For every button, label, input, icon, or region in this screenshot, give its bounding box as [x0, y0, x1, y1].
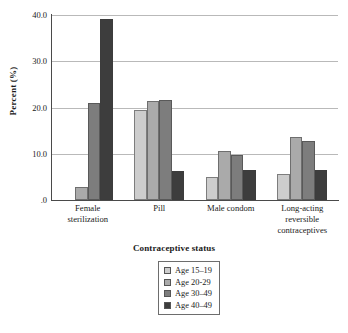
bar [134, 110, 147, 200]
bar [147, 101, 160, 200]
y-axis-tick-label: 40.0 [32, 10, 47, 20]
x-axis-tick-label: Pill [124, 203, 196, 214]
x-axis-tick-label-line: reversible [267, 214, 339, 225]
legend-item-label: Age 20-29 [175, 278, 211, 287]
legend-swatch-icon [164, 290, 171, 297]
x-axis-tick-label-line: Female [52, 203, 124, 214]
bar-group [63, 15, 113, 200]
legend-item: Age 40–49 [164, 300, 212, 312]
bar [243, 170, 256, 200]
bar [159, 100, 172, 200]
x-axis-tick-label-line: sterilization [52, 214, 124, 225]
x-axis-tick-label-line: contraceptives [267, 225, 339, 236]
plot-inner: .010.020.030.040.0 [52, 15, 338, 200]
bar [315, 170, 328, 200]
chart-legend: Age 15–19Age 20-29Age 30–49Age 40–49 [158, 261, 220, 315]
y-axis-title: Percent (%) [8, 51, 18, 131]
bar [302, 141, 315, 200]
y-axis-tick-label: 10.0 [32, 149, 47, 159]
bar [100, 19, 113, 200]
legend-swatch-icon [164, 302, 171, 309]
x-axis-tick-label-line: Long-acting [267, 203, 339, 214]
plot-area: .010.020.030.040.0 [52, 15, 338, 200]
bar-chart-figure: Percent (%) .010.020.030.040.0 Femaleste… [0, 0, 348, 333]
y-axis-tick-label: .0 [41, 195, 47, 205]
x-axis-title: Contraceptive status [0, 243, 348, 253]
y-axis-tick-label: 30.0 [32, 56, 47, 66]
bar [88, 103, 101, 200]
y-axis-tick-label: 20.0 [32, 103, 47, 113]
x-axis-tick-label: Long-actingreversiblecontraceptives [267, 203, 339, 236]
x-axis-tick-label: Male condom [195, 203, 267, 214]
bar [206, 177, 219, 200]
legend-item: Age 20-29 [164, 277, 212, 289]
bar [290, 137, 303, 200]
legend-item-label: Age 30–49 [175, 289, 212, 298]
legend-item: Age 15–19 [164, 265, 212, 277]
legend-item-label: Age 40–49 [175, 301, 212, 310]
legend-item: Age 30–49 [164, 288, 212, 300]
x-axis-tick-label-line: Pill [124, 203, 196, 214]
bar-group [134, 15, 184, 200]
bar [277, 174, 290, 200]
bar-group [206, 15, 256, 200]
bar [218, 151, 231, 200]
legend-item-label: Age 15–19 [175, 266, 212, 275]
legend-swatch-icon [164, 279, 171, 286]
bar [75, 187, 88, 200]
x-axis-line [51, 200, 339, 201]
bar [172, 171, 185, 200]
x-axis-tick-label: Femalesterilization [52, 203, 124, 225]
bar-group [277, 15, 327, 200]
legend-swatch-icon [164, 267, 171, 274]
x-axis-tick-label-line: Male condom [195, 203, 267, 214]
bar [231, 155, 244, 200]
